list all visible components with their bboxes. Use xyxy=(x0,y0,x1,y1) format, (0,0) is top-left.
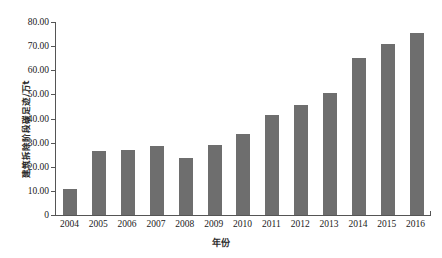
plot-area xyxy=(55,22,430,215)
x-tick-label: 2008 xyxy=(175,219,194,229)
y-tick-mark xyxy=(51,46,55,47)
y-tick-mark xyxy=(51,215,55,216)
y-tick-label: 40.00 xyxy=(28,114,49,124)
bar xyxy=(63,189,77,215)
bar-slot xyxy=(373,22,402,215)
bar xyxy=(294,105,308,215)
x-tick-label: 2009 xyxy=(204,219,223,229)
bar-slot xyxy=(85,22,114,215)
y-tick-label: 10.00 xyxy=(28,186,49,196)
bar xyxy=(323,93,337,215)
bar-slot xyxy=(258,22,287,215)
bar xyxy=(179,158,193,215)
x-tick-label: 2013 xyxy=(320,219,339,229)
y-tick-label: 80.00 xyxy=(28,17,49,27)
y-tick-label: 0 xyxy=(44,210,49,220)
bar xyxy=(381,44,395,215)
y-tick-label: 60.00 xyxy=(28,65,49,75)
y-tick-label: 30.00 xyxy=(28,138,49,148)
bar xyxy=(265,115,279,215)
x-axis-line xyxy=(55,215,431,216)
bar xyxy=(150,146,164,215)
bar xyxy=(352,58,366,215)
x-tick-label: 2007 xyxy=(146,219,165,229)
bar-series xyxy=(56,22,430,215)
bar-slot xyxy=(56,22,85,215)
bar-slot xyxy=(171,22,200,215)
y-tick-label: 20.00 xyxy=(28,162,49,172)
x-axis-title: 年份 xyxy=(0,236,442,249)
y-tick-label: 50.00 xyxy=(28,89,49,99)
y-tick-label: 70.00 xyxy=(28,41,49,51)
bar-slot xyxy=(229,22,258,215)
x-tick-label: 2004 xyxy=(60,219,79,229)
x-tick-label: 2016 xyxy=(406,219,425,229)
x-tick-label: 2006 xyxy=(118,219,137,229)
bar-slot xyxy=(114,22,143,215)
y-tick-mark xyxy=(51,143,55,144)
bar-slot xyxy=(143,22,172,215)
bar xyxy=(208,145,222,215)
bar-slot xyxy=(200,22,229,215)
y-tick-mark xyxy=(51,167,55,168)
x-tick-label: 2010 xyxy=(233,219,252,229)
bar-slot xyxy=(344,22,373,215)
y-tick-mark xyxy=(51,94,55,95)
bar-slot xyxy=(316,22,345,215)
y-tick-mark xyxy=(51,70,55,71)
bar-chart: 建筑拆除阶段碳足迹/万t 010.0020.0030.0040.0050.006… xyxy=(0,0,442,258)
bar xyxy=(92,151,106,215)
y-tick-mark xyxy=(51,119,55,120)
x-tick-label: 2015 xyxy=(377,219,396,229)
x-tick-label: 2011 xyxy=(262,219,281,229)
bar xyxy=(236,134,250,215)
bar-slot xyxy=(402,22,431,215)
x-tick-label: 2012 xyxy=(291,219,310,229)
y-tick-mark xyxy=(51,191,55,192)
x-axis-end-tick xyxy=(430,211,431,216)
x-tick-label: 2005 xyxy=(89,219,108,229)
bar-slot xyxy=(287,22,316,215)
bar xyxy=(410,33,424,215)
bar xyxy=(121,150,135,215)
y-tick-mark xyxy=(51,22,55,23)
x-tick-label: 2014 xyxy=(348,219,367,229)
